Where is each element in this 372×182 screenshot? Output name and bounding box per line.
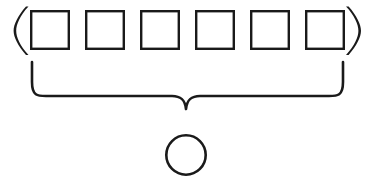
box-item[interactable] — [251, 11, 289, 49]
result-circle[interactable] — [166, 135, 205, 174]
tuple-to-circle-diagram — [0, 0, 372, 182]
box-item[interactable] — [31, 11, 69, 49]
box-item[interactable] — [141, 11, 179, 49]
close-paren-icon — [346, 7, 361, 56]
open-paren-icon — [14, 7, 29, 56]
diagram-canvas — [0, 0, 372, 182]
under-brace-icon — [32, 62, 343, 109]
box-row — [31, 11, 344, 49]
box-item[interactable] — [86, 11, 124, 49]
box-item[interactable] — [196, 11, 234, 49]
box-item[interactable] — [306, 11, 344, 49]
